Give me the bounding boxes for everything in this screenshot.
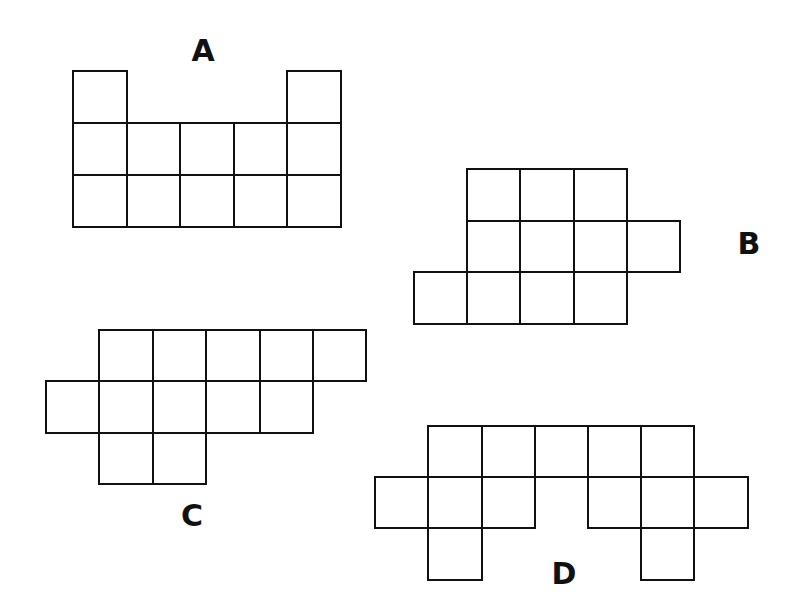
grid-cell	[205, 329, 261, 382]
grid-cell	[286, 174, 342, 228]
grid-cell	[413, 271, 468, 325]
grid-cell	[573, 271, 628, 325]
grid-cell	[573, 168, 628, 222]
shape-a-label: A	[191, 36, 214, 66]
grid-cell	[573, 220, 628, 273]
grid-cell	[481, 476, 536, 529]
grid-cell	[519, 168, 575, 222]
shape-d-label: D	[552, 559, 577, 589]
shape-c-label: C	[181, 501, 203, 531]
grid-cell	[72, 174, 128, 228]
grid-cell	[205, 380, 261, 434]
grid-cell	[427, 476, 483, 529]
grid-cell	[45, 380, 100, 434]
grid-cell	[693, 476, 749, 529]
grid-cell	[259, 329, 314, 382]
grid-cell	[152, 432, 207, 485]
grid-cell	[98, 329, 154, 382]
grid-cell	[427, 527, 483, 581]
grid-cell	[72, 70, 128, 124]
grid-cell	[126, 174, 181, 228]
grid-cell	[286, 70, 342, 124]
shape-b-label: B	[738, 229, 761, 259]
diagram-canvas: A B C D	[0, 0, 795, 615]
grid-cell	[640, 527, 695, 581]
grid-cell	[626, 220, 681, 273]
grid-cell	[152, 380, 207, 434]
grid-cell	[466, 168, 521, 222]
grid-cell	[233, 122, 288, 176]
grid-cell	[640, 425, 695, 478]
grid-cell	[72, 122, 128, 176]
grid-cell	[259, 380, 314, 434]
grid-cell	[534, 425, 589, 478]
grid-cell	[126, 122, 181, 176]
grid-cell	[98, 432, 154, 485]
grid-cell	[233, 174, 288, 228]
grid-cell	[98, 380, 154, 434]
grid-cell	[374, 476, 429, 529]
grid-cell	[640, 476, 695, 529]
grid-cell	[519, 271, 575, 325]
grid-cell	[312, 329, 367, 382]
grid-cell	[152, 329, 207, 382]
grid-cell	[179, 174, 235, 228]
grid-cell	[466, 271, 521, 325]
grid-cell	[286, 122, 342, 176]
grid-cell	[481, 425, 536, 478]
grid-cell	[587, 476, 642, 529]
grid-cell	[179, 122, 235, 176]
grid-cell	[427, 425, 483, 478]
grid-cell	[519, 220, 575, 273]
grid-cell	[466, 220, 521, 273]
grid-cell	[587, 425, 642, 478]
